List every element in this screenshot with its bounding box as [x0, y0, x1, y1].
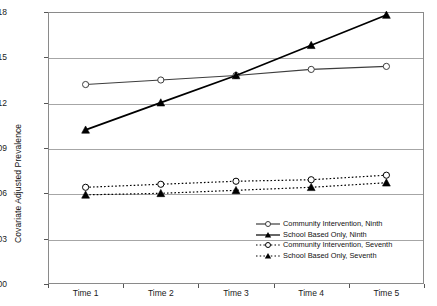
data-point-marker — [158, 181, 164, 187]
data-point-marker — [383, 179, 391, 186]
legend-item: Community Intervention, Seventh — [255, 240, 413, 251]
data-point-marker — [308, 66, 314, 72]
legend-item-label: School Based Only, Ninth — [283, 230, 367, 241]
legend-key-circle-icon — [255, 240, 281, 250]
legend-item: School Based Only, Seventh — [255, 251, 413, 262]
legend-item: School Based Only, Ninth — [255, 230, 413, 241]
data-point-marker — [308, 177, 314, 183]
legend-item-label: Community Intervention, Seventh — [283, 240, 392, 251]
data-point-marker — [383, 172, 389, 178]
series-2 — [82, 11, 391, 133]
data-point-marker — [383, 11, 391, 18]
legend-key-circle-icon — [255, 219, 281, 229]
data-point-marker — [158, 77, 164, 83]
data-point-marker — [83, 81, 89, 87]
legend-item-label: School Based Only, Seventh — [283, 251, 377, 262]
data-point-marker — [82, 191, 90, 198]
chart-legend: Community Intervention, NinthSchool Base… — [255, 219, 413, 261]
data-point-marker — [383, 63, 389, 69]
legend-item-label: Community Intervention, Ninth — [283, 219, 382, 230]
chart-container: 0.000.030.060.090.120.150.18 Covariate A… — [0, 0, 437, 306]
legend-key-triangle-icon — [255, 230, 281, 240]
legend-key-triangle-icon — [255, 251, 281, 261]
legend-item: Community Intervention, Ninth — [255, 219, 413, 230]
data-point-marker — [233, 178, 239, 184]
data-point-marker — [83, 184, 89, 190]
